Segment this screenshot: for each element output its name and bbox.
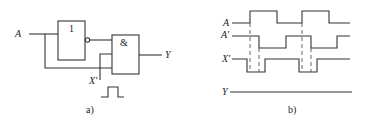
- circuit-diagram: A 1 & X' Y a): [14, 21, 172, 116]
- signal-y-label: Y: [222, 86, 229, 97]
- pulse-icon: [101, 87, 124, 97]
- diagram-canvas: A 1 & X' Y a) A A' X' Y b): [0, 0, 369, 121]
- caption-b: b): [288, 104, 296, 116]
- timing-diagram: A A' X' Y b): [220, 11, 352, 116]
- and-gate-symbol: &: [120, 37, 128, 48]
- inverter-bubble-icon: [85, 38, 89, 42]
- x-prime-wire: [100, 54, 112, 80]
- input-a-label: A: [14, 28, 22, 39]
- signal-a-waveform: [232, 11, 350, 23]
- x-prime-label: X': [88, 75, 98, 86]
- signal-a-label: A: [222, 17, 230, 28]
- signal-x-prime-label: X': [221, 53, 231, 64]
- not-gate-symbol: 1: [69, 23, 74, 34]
- signal-a-prime-label: A': [220, 29, 230, 40]
- a-branch-wire: [45, 34, 112, 68]
- output-y-label: Y: [165, 49, 172, 60]
- caption-a: a): [86, 104, 94, 116]
